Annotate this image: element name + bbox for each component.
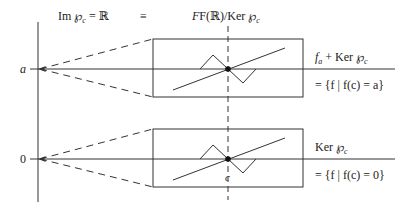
point-c-label: c xyxy=(225,171,230,183)
coset-set-description: = {f | f(c) = a} xyxy=(315,78,384,92)
projection-dashed-top-upper xyxy=(40,39,153,69)
im-phi-label: Im ℘c = ℝ xyxy=(58,9,110,25)
equivalence-symbol: ≡ xyxy=(140,9,147,23)
point-c-top xyxy=(225,66,231,72)
point-c-bottom xyxy=(225,156,231,162)
kernel-label: Ker ℘c xyxy=(315,140,348,156)
projection-dashed-top-lower xyxy=(40,69,153,97)
projection-dashed-bottom-lower xyxy=(40,159,153,187)
tick-a-label: a xyxy=(20,62,26,76)
diagram-canvas: Im ℘c = ℝ ≡ FF(ℝ)/Ker ℘c a 0 c fa + Ker … xyxy=(0,0,412,214)
tick-0-label: 0 xyxy=(20,152,26,166)
kernel-set-description: = {f | f(c) = 0} xyxy=(315,168,385,182)
projection-dashed-bottom-upper xyxy=(40,129,153,159)
coset-label: fa + Ker ℘c xyxy=(315,50,368,66)
quotient-label: FF(ℝ)/Ker ℘c xyxy=(191,9,260,25)
